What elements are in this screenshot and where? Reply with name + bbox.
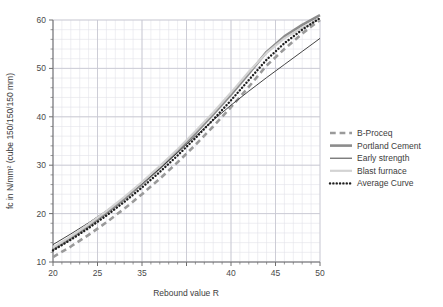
- chart-legend: B-ProceqPortland CementEarly strengthBla…: [330, 128, 421, 188]
- x-tick-label: 50: [315, 268, 325, 278]
- y-tick-label: 50: [37, 63, 47, 73]
- x-tick-labels: 202535404550: [48, 268, 325, 278]
- y-tick-label: 20: [37, 209, 47, 219]
- y-tick-label: 40: [37, 112, 47, 122]
- chart-canvas: 202535404550 102030405060 B-ProceqPortla…: [0, 0, 443, 307]
- y-axis-title: fc in N/mm² (cube 150/150/150 mm): [5, 73, 15, 209]
- legend-label-1: B-Proceq: [357, 128, 393, 138]
- y-tick-label: 10: [37, 257, 47, 267]
- x-tick-label: 40: [226, 268, 236, 278]
- legend-label-2: Portland Cement: [357, 141, 421, 151]
- legend-label-4: Blast furnace: [357, 166, 407, 176]
- x-tick-label: 35: [137, 268, 147, 278]
- x-tick-label: 25: [93, 268, 103, 278]
- x-tick-label: 20: [48, 268, 58, 278]
- y-tick-label: 30: [37, 160, 47, 170]
- rebound-strength-chart: 202535404550 102030405060 B-ProceqPortla…: [0, 0, 443, 307]
- x-tick-label: 45: [271, 268, 281, 278]
- legend-label-5: Average Curve: [357, 178, 414, 188]
- y-tick-label: 60: [37, 15, 47, 25]
- x-axis-title: Rebound value R: [153, 288, 219, 298]
- legend-label-3: Early strength: [357, 153, 410, 163]
- y-tick-labels: 102030405060: [37, 15, 47, 267]
